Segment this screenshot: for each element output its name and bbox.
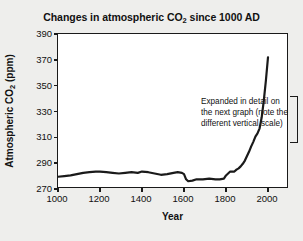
y-axis-label-subscript: 2 xyxy=(8,84,17,88)
y-axis-label-before: Atmospheric CO xyxy=(4,88,15,167)
x-axis-tick-label: 1400 xyxy=(121,193,161,204)
plot-area: Expanded in detail on the next graph (no… xyxy=(57,33,288,188)
y-axis-tick-mark xyxy=(54,59,59,60)
x-axis-tick-label: 2000 xyxy=(247,193,287,204)
chart-title-before: Changes in atmospheric CO xyxy=(43,11,182,23)
x-axis-tick-label: 1200 xyxy=(79,193,119,204)
y-axis-tick-mark xyxy=(54,85,59,86)
y-axis-label-text: Atmospheric CO2 (ppm) xyxy=(4,54,15,168)
x-axis-tick-label: 1600 xyxy=(163,193,203,204)
chart-figure: Changes in atmospheric CO2 since 1000 AD… xyxy=(0,0,303,241)
x-axis-tick-mark xyxy=(183,187,184,192)
x-axis-tick-label: 1000 xyxy=(37,193,77,204)
annotation-bracket-icon xyxy=(290,96,298,143)
y-axis-tick-labels: 270290310330350370390 xyxy=(18,0,56,241)
x-axis-tick-mark xyxy=(267,187,268,192)
y-axis-tick-mark xyxy=(54,137,59,138)
x-axis-label: Year xyxy=(57,211,288,222)
y-axis-tick-label: 350 xyxy=(18,79,52,90)
y-axis-tick-mark xyxy=(54,33,59,34)
chart-title-after: since 1000 AD xyxy=(187,11,260,23)
x-axis-tick-mark xyxy=(99,187,100,192)
y-axis-tick-mark xyxy=(54,162,59,163)
x-axis-tick-mark xyxy=(141,187,142,192)
y-axis-label: Atmospheric CO2 (ppm) xyxy=(2,33,16,188)
y-axis-tick-label: 330 xyxy=(18,105,52,116)
x-axis-tick-label: 1800 xyxy=(205,193,245,204)
y-axis-tick-label: 290 xyxy=(18,157,52,168)
y-axis-tick-label: 370 xyxy=(18,53,52,64)
y-axis-tick-mark xyxy=(54,111,59,112)
y-axis-tick-label: 390 xyxy=(18,28,52,39)
x-axis-tick-mark xyxy=(57,187,58,192)
annotation-text: Expanded in detail on the next graph (no… xyxy=(201,96,289,129)
y-axis-label-after: (ppm) xyxy=(4,54,15,85)
x-axis-tick-mark xyxy=(225,187,226,192)
chart-title-subscript: 2 xyxy=(183,16,187,25)
y-axis-tick-label: 270 xyxy=(18,183,52,194)
y-axis-tick-label: 310 xyxy=(18,131,52,142)
